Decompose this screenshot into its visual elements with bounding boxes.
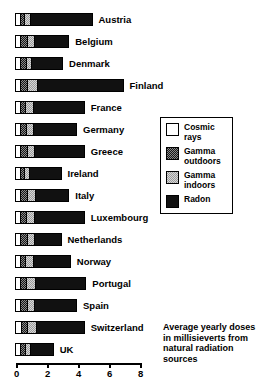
bar-label: Greece (91, 145, 123, 158)
bar-label: Denmark (69, 57, 110, 70)
legend-item: Cosmicrays (166, 123, 228, 142)
bar-segment-radon (31, 344, 52, 355)
stacked-bar (15, 13, 93, 26)
bar-segment-gamma-indoors (25, 14, 32, 25)
bar-label: Netherlands (68, 233, 123, 246)
bar-segment-gamma-indoors (27, 212, 36, 223)
bar-segment-gamma-outdoors (21, 80, 28, 91)
bar-segment-radon (35, 300, 76, 311)
stacked-bar (15, 57, 63, 70)
legend-item: Radon (166, 195, 228, 208)
bar-segment-radon (36, 278, 85, 289)
legend-label: Cosmicrays (184, 123, 215, 142)
stacked-bar (15, 211, 85, 224)
legend-label: Gammaindoors (184, 171, 215, 190)
stacked-bar (15, 321, 85, 334)
bar-segment-gamma-indoors (28, 146, 35, 157)
x-axis-tick-label: 2 (45, 368, 50, 379)
bar-segment-radon (35, 212, 83, 223)
bar-segment-gamma-indoors (26, 256, 34, 267)
stacked-bar (15, 145, 85, 158)
stacked-bar (15, 277, 86, 290)
bar-segment-gamma-outdoors (21, 190, 28, 201)
bar-segment-gamma-outdoors (21, 146, 28, 157)
x-axis-tick-label: 0 (14, 368, 19, 379)
bar-segment-gamma-outdoors (21, 36, 28, 47)
bar-segment-radon (34, 256, 70, 267)
stacked-bar (15, 189, 69, 202)
legend-swatch-icon (166, 123, 179, 136)
bar-segment-radon (35, 146, 84, 157)
bar-label: Austria (99, 13, 132, 26)
bar-label: Portugal (92, 277, 131, 290)
bar-segment-gamma-indoors (26, 102, 34, 113)
bar-segment-gamma-indoors (28, 234, 35, 245)
bar-label: UK (60, 343, 74, 356)
bar-segment-gamma-indoors (27, 278, 36, 289)
bar-label: Spain (83, 299, 109, 312)
bar-segment-radon (38, 80, 123, 91)
bar-segment-radon (34, 102, 84, 113)
bar-segment-radon (36, 190, 68, 201)
bar-label: Norway (77, 255, 111, 268)
bar-segment-gamma-outdoors (21, 300, 28, 311)
bar-segment-gamma-indoors (28, 322, 37, 333)
legend-swatch-icon (166, 195, 179, 208)
stacked-bar (15, 167, 62, 180)
bar-segment-gamma-indoors (28, 190, 37, 201)
bar-label: France (91, 101, 122, 114)
stacked-bar (15, 343, 54, 356)
bar-segment-radon (30, 168, 61, 179)
chart-legend: CosmicraysGammaoutdoorsGammaindoorsRadon (160, 117, 233, 214)
stacked-bar (15, 79, 124, 92)
legend-swatch-icon (166, 171, 179, 184)
legend-item: Gammaoutdoors (166, 147, 228, 166)
bar-label: Germany (83, 123, 124, 136)
bar-segment-gamma-indoors (28, 300, 35, 311)
stacked-bar (15, 299, 77, 312)
bar-label: Ireland (68, 167, 99, 180)
bar-label: Finland (130, 79, 164, 92)
x-axis-tick-label: 8 (138, 368, 143, 379)
x-axis: 02468 (0, 363, 267, 385)
bar-segment-gamma-indoors (27, 124, 34, 135)
stacked-bar (15, 233, 62, 246)
stacked-bar (15, 123, 77, 136)
bar-segment-radon (34, 124, 76, 135)
legend-item: Gammaindoors (166, 171, 228, 190)
bar-segment-gamma-indoors (28, 80, 38, 91)
bar-label: Italy (75, 189, 94, 202)
bar-label: Switzerland (91, 321, 144, 334)
bar-segment-gamma-indoors (28, 36, 35, 47)
x-axis-tick-label: 6 (107, 368, 112, 379)
stacked-bar-chart: AustriaBelgiumDenmarkFinlandFranceGerman… (0, 0, 267, 389)
legend-label: Radon (184, 195, 210, 205)
bar-segment-radon (32, 58, 62, 69)
legend-swatch-icon (166, 147, 179, 160)
bar-segment-gamma-outdoors (21, 234, 28, 245)
bar-segment-radon (37, 322, 84, 333)
bar-label: Luxembourg (91, 211, 149, 224)
bar-label: Belgium (75, 35, 112, 48)
bar-segment-radon (35, 234, 61, 245)
stacked-bar (15, 255, 71, 268)
stacked-bar (15, 35, 69, 48)
x-axis-tick-label: 4 (76, 368, 81, 379)
legend-label: Gammaoutdoors (184, 147, 221, 166)
bar-segment-radon (35, 36, 69, 47)
chart-caption: Average yearly doses in millisieverts fr… (163, 322, 263, 364)
bar-segment-radon (31, 14, 91, 25)
stacked-bar (15, 101, 85, 114)
